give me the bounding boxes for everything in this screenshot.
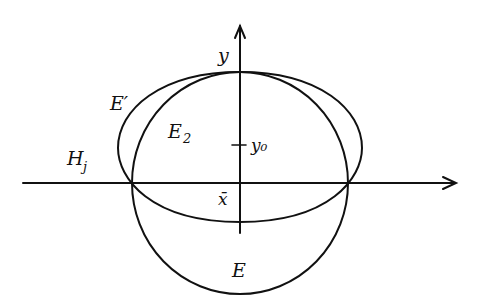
H-j-label: H j	[66, 147, 87, 174]
y-axis	[235, 26, 245, 233]
E2-label: E 2	[167, 120, 191, 146]
E-label: E	[231, 259, 246, 281]
svg-text:E: E	[167, 120, 182, 142]
svg-text:H: H	[66, 147, 84, 169]
svg-text:2: 2	[182, 131, 191, 146]
ellipsoid-diagram: y y₀ x̄ E′ E 2 H j E	[0, 0, 483, 303]
E-prime-label: E′	[109, 92, 129, 114]
x-bar-label: x̄	[218, 189, 228, 209]
y0-label: y₀	[250, 135, 268, 155]
y-axis-label: y	[217, 44, 229, 66]
